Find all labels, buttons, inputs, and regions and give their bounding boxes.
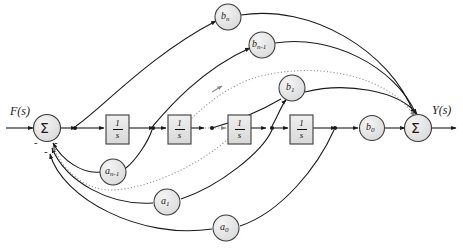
pickoff-node (73, 126, 77, 130)
integrator-block-3-label: 1 s (228, 115, 251, 144)
ff-path-bn-in (76, 21, 216, 126)
integrator-denominator: s (178, 130, 182, 140)
output-label: Y(s) (432, 103, 451, 118)
pickoff-node (151, 126, 155, 130)
gain-label-a1: a1 (161, 195, 170, 208)
sign-minus-2: - (54, 136, 58, 148)
integrator-denominator: s (238, 130, 242, 140)
pickoff-node (210, 126, 214, 130)
pickoff-node (270, 126, 274, 130)
gain-subscript: n (226, 15, 230, 23)
fb-path-dotted (53, 122, 244, 190)
ff-path-b1-in (272, 100, 286, 126)
gain-subscript: 1 (166, 200, 170, 208)
integrator-denominator: s (300, 130, 304, 140)
gain-subscript: 0 (371, 126, 375, 134)
sign-minus-1: - (34, 136, 38, 148)
block-diagram-figure: F(s) Y(s) Σ Σ - - - 1 s 1 s 1 s 1 s bn b… (0, 0, 463, 250)
gain-label-b0: b0 (366, 121, 375, 134)
integrator-block-1-label: 1 s (106, 115, 129, 144)
fb-path-a0-in (240, 130, 334, 226)
pickoff-node (333, 126, 337, 130)
integrator-numerator: 1 (237, 119, 242, 129)
ff-path-bn-out (241, 13, 414, 114)
integrator-denominator: s (116, 130, 120, 140)
gain-label-bn-1: bn-1 (252, 38, 266, 51)
integrator-block-2-label: 1 s (168, 115, 191, 144)
fb-path-a1-in (181, 130, 272, 199)
gain-label-bn: bn (221, 10, 230, 23)
gain-label-a0: a0 (220, 221, 229, 234)
gain-label-an-1: an-1 (105, 165, 119, 178)
integrator-numerator: 1 (115, 119, 120, 129)
summing-junction-left-label: Σ (40, 120, 49, 136)
gain-subscript: n-1 (257, 43, 266, 51)
gain-subscript: 1 (291, 86, 295, 94)
input-label: F(s) (10, 104, 30, 119)
gain-subscript: n-1 (110, 170, 119, 178)
gain-label-b1: b1 (286, 81, 295, 94)
fb-path-an1-out (53, 143, 100, 172)
ff-path-dotted-arrow-mid (212, 86, 222, 92)
integrator-numerator: 1 (299, 119, 304, 129)
integrator-numerator: 1 (177, 119, 182, 129)
integrator-block-4-label: 1 s (290, 115, 313, 144)
sign-minus-3: - (44, 145, 48, 157)
summing-junction-right-label: Σ (411, 120, 420, 136)
gain-subscript: 0 (225, 226, 229, 234)
ff-path-b1-out (305, 88, 417, 114)
fb-path-an1-in (126, 130, 152, 168)
